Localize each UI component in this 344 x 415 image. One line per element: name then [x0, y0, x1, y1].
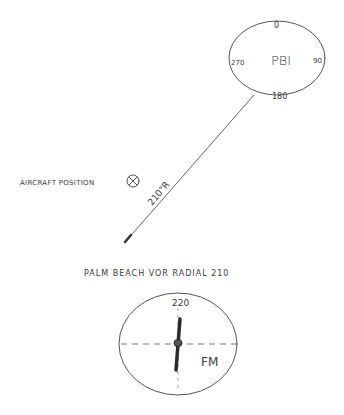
aircraft-position-icon — [127, 175, 139, 187]
to-from-flag: FM — [201, 355, 218, 369]
vor-diagram: 0 90 180 270 PBI 210°R AIRCRAFT POSITION… — [0, 0, 344, 415]
vor-compass-north: 0 — [274, 21, 279, 30]
indicator-course: 220 — [172, 298, 189, 308]
vor-compass-south: 180 — [272, 92, 287, 101]
radial-line — [127, 95, 254, 240]
vor-indicator: 220 FM — [119, 293, 237, 395]
vor-identifier: PBI — [271, 53, 291, 68]
radial-arrowhead — [125, 235, 131, 242]
vor-compass-west: 270 — [231, 59, 244, 67]
cdi-center — [174, 340, 182, 347]
vor-compass-east: 90 — [313, 57, 322, 65]
aircraft-position-label: AIRCRAFT POSITION — [20, 179, 94, 187]
diagram-caption: PALM BEACH VOR RADIAL 210 — [84, 269, 229, 278]
